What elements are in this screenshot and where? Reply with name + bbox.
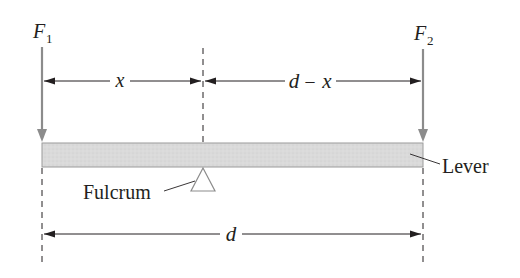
lever-bar (42, 143, 423, 167)
dimension-d-arrowhead-right (410, 231, 421, 238)
dimension-dmx-d: d (289, 69, 300, 93)
force-f1-subscript: 1 (46, 31, 53, 46)
fulcrum-label: Fulcrum (83, 181, 151, 203)
dimension-d-minus-x: d – x (205, 69, 421, 93)
force-f1-symbol: F (32, 20, 46, 42)
dimension-dmx-x: x (321, 69, 332, 93)
dimension-x-label: x (115, 69, 125, 91)
force-f1-arrowhead (37, 129, 47, 142)
force-f2-symbol: F (413, 22, 427, 44)
lever-label: Lever (442, 155, 489, 177)
dimension-dmx-arrowhead-right (410, 78, 421, 85)
dimension-x: x (44, 69, 201, 91)
lever-diagram: F 1 F 2 x d – x Fulcrum Lever (0, 0, 520, 278)
diagram-canvas: F 1 F 2 x d – x Fulcrum Lever (0, 0, 520, 278)
dimension-d: d (44, 222, 421, 246)
dimension-d-label: d (226, 222, 237, 246)
fulcrum-triangle (191, 168, 215, 191)
dimension-d-arrowhead-left (44, 231, 55, 238)
dimension-x-arrowhead-right (190, 78, 201, 85)
force-f2-arrowhead (418, 129, 428, 142)
force-f2-subscript: 2 (427, 33, 434, 48)
dimension-x-arrowhead-left (44, 78, 55, 85)
dimension-dmx-minus: – (305, 71, 316, 91)
dimension-dmx-arrowhead-left (205, 78, 216, 85)
fulcrum-leader-line (164, 181, 195, 191)
